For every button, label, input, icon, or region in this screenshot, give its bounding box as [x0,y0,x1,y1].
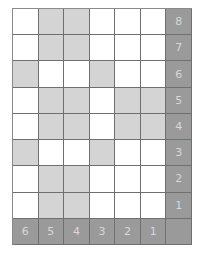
grid-cell [115,35,141,61]
grid-cell [115,166,141,192]
column-label: 6 [13,219,39,245]
grid-cell [64,9,90,35]
grid-cell [13,140,39,166]
column-label: 5 [39,219,65,245]
grid-cell [90,61,116,87]
grid-cell [141,35,167,61]
grid-cell [13,61,39,87]
grid-cell [64,88,90,114]
grid-cell [64,166,90,192]
grid-cell [39,166,65,192]
row-label: 2 [166,166,192,192]
grid-cell [13,9,39,35]
column-label: 3 [90,219,116,245]
grid-cell [13,88,39,114]
grid-cell [115,88,141,114]
row-label: 5 [166,88,192,114]
grid-cell [39,114,65,140]
grid-cell [90,193,116,219]
grid-cell [90,88,116,114]
grid-cell [141,166,167,192]
grid-cell [115,61,141,87]
grid-cell [141,193,167,219]
column-label: 4 [64,219,90,245]
grid-cell [64,61,90,87]
grid-cell [141,140,167,166]
pattern-grid: 87654321654321 [12,8,192,245]
grid-cell [39,9,65,35]
grid-cell [90,166,116,192]
grid-cell [90,140,116,166]
grid-cell [141,88,167,114]
row-label: 6 [166,61,192,87]
row-label: 7 [166,35,192,61]
grid-cell [141,61,167,87]
row-label: 4 [166,114,192,140]
grid-cell [64,35,90,61]
grid-cell [115,114,141,140]
grid-cell [13,193,39,219]
grid-cell [13,35,39,61]
grid-cell [64,193,90,219]
row-label: 3 [166,140,192,166]
grid-cell [39,35,65,61]
grid-cell [141,9,167,35]
grid-cell [115,193,141,219]
corner-cell [166,219,192,245]
grid-cell [115,140,141,166]
grid-cell [39,61,65,87]
grid-cell [90,35,116,61]
grid-cell [39,140,65,166]
grid-cell [39,88,65,114]
column-label: 2 [115,219,141,245]
row-label: 8 [166,9,192,35]
row-label: 1 [166,193,192,219]
grid-cell [90,114,116,140]
grid-cell [64,140,90,166]
grid-cell [115,9,141,35]
grid-cell [13,166,39,192]
grid-cell [39,193,65,219]
column-label: 1 [141,219,167,245]
grid-cell [13,114,39,140]
grid-cell [64,114,90,140]
grid-cell [141,114,167,140]
grid-cell [90,9,116,35]
